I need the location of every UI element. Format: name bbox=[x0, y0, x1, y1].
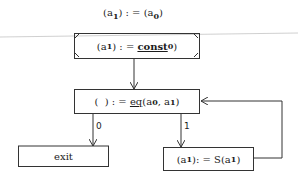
successor-box: (a1): = S(a1) bbox=[163, 147, 254, 171]
